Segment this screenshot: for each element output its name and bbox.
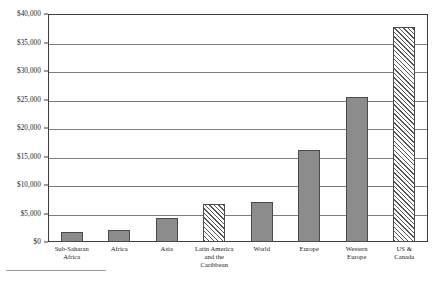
- y-axis-tick-label: $10,000: [17, 181, 41, 189]
- y-axis-tick-label: $0: [34, 238, 41, 246]
- x-axis-tick-label: Latin Americaand theCaribbean: [191, 245, 239, 270]
- x-axis-tick-label-line: Asia: [143, 245, 191, 253]
- bar-slot: [346, 14, 368, 242]
- bar-slot: [108, 14, 130, 242]
- x-axis-tick-label-line: Africa: [48, 253, 96, 261]
- x-axis-tick-label-line: US &: [381, 245, 429, 253]
- bar-slot: [393, 14, 415, 242]
- x-axis-tick-label-line: Canada: [381, 253, 429, 261]
- x-axis-tick-label-line: World: [238, 245, 286, 253]
- x-axis-tick-label-line: Africa: [96, 245, 144, 253]
- bar: [393, 27, 415, 242]
- bar: [108, 230, 130, 242]
- y-axis-tick-label: $15,000: [17, 153, 41, 161]
- bar: [203, 204, 225, 242]
- y-axis-tick-label: $20,000: [17, 124, 41, 132]
- x-axis-tick-label-line: Sub-Saharan: [48, 245, 96, 253]
- x-axis-tick-label-line: Latin America: [191, 245, 239, 253]
- x-axis-tick-label-line: and the: [191, 253, 239, 261]
- bar-slot: [61, 14, 83, 242]
- bar: [298, 150, 320, 242]
- x-axis-tick-label-line: Western: [333, 245, 381, 253]
- y-axis-tick-label: $5,000: [21, 210, 41, 218]
- bar-slot: [203, 14, 225, 242]
- x-axis-tick-label: US &Canada: [381, 245, 429, 261]
- x-axis-tick-label: World: [238, 245, 286, 253]
- page-rule-artifact: [6, 270, 106, 271]
- x-axis: Sub-SaharanAfricaAfricaAsiaLatin America…: [48, 245, 428, 281]
- y-axis-tick-label: $25,000: [17, 96, 41, 104]
- x-axis-tick-label: Europe: [286, 245, 334, 253]
- bar: [251, 202, 273, 242]
- y-axis-tick-label: $30,000: [17, 67, 41, 75]
- x-axis-tick-label-line: Europe: [333, 253, 381, 261]
- x-axis-tick-label: Asia: [143, 245, 191, 253]
- bars-layer: [48, 14, 428, 242]
- x-axis-tick-label: WesternEurope: [333, 245, 381, 261]
- bar-chart-figure: $0$5,000$10,000$15,000$20,000$25,000$30,…: [0, 0, 443, 281]
- bar-slot: [251, 14, 273, 242]
- x-axis-tick-label: Africa: [96, 245, 144, 253]
- y-axis: $0$5,000$10,000$15,000$20,000$25,000$30,…: [0, 0, 48, 281]
- y-axis-tick-label: $40,000: [17, 10, 41, 18]
- bar-slot: [156, 14, 178, 242]
- bar: [61, 232, 83, 242]
- bar-slot: [298, 14, 320, 242]
- x-axis-tick-label-line: Europe: [286, 245, 334, 253]
- x-axis-tick-label: Sub-SaharanAfrica: [48, 245, 96, 261]
- bar: [156, 218, 178, 243]
- y-axis-tick-label: $35,000: [17, 39, 41, 47]
- bar: [346, 97, 368, 242]
- x-axis-tick-label-line: Caribbean: [191, 261, 239, 269]
